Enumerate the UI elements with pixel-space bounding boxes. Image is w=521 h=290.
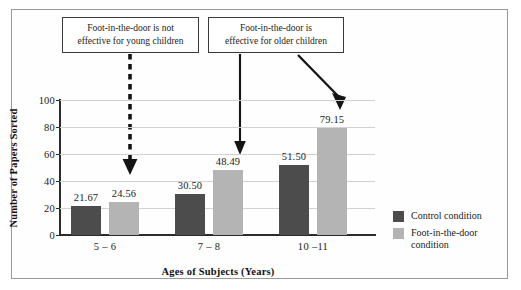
annotation-2-line-1: Foot-in-the-door is bbox=[215, 22, 337, 35]
chart-figure: Foot-in-the-door is not effective for yo… bbox=[0, 0, 521, 290]
plot-area: 02040608010021.6724.5630.5048.4951.5079.… bbox=[60, 100, 375, 235]
x-tick-label-2: 10 –11 bbox=[298, 241, 328, 252]
legend-label-control: Control condition bbox=[411, 210, 482, 222]
bar-control-0 bbox=[71, 206, 101, 235]
legend-item-foot-in-the-door: Foot-in-the-door condition bbox=[393, 227, 501, 250]
chart-legend: Control condition Foot-in-the-door condi… bbox=[393, 210, 501, 255]
legend-swatch-icon-foot-in-the-door bbox=[393, 228, 404, 239]
y-axis-title: Number of Papers Sorted bbox=[8, 108, 19, 227]
annotation-1-line-2: effective for young children bbox=[69, 35, 192, 48]
y-tick-mark-2 bbox=[56, 181, 60, 182]
bar-value-label-control-0: 21.67 bbox=[74, 192, 99, 203]
bar-value-label-foot-in-the-door-2: 79.15 bbox=[320, 114, 345, 125]
legend-label-foot-in-the-door: Foot-in-the-door condition bbox=[411, 227, 501, 250]
bar-control-1 bbox=[175, 194, 205, 235]
y-tick-mark-3 bbox=[56, 154, 60, 155]
annotation-2-line-2: effective for older children bbox=[215, 35, 337, 48]
y-tick-label-0: 0 bbox=[50, 230, 55, 241]
gridline bbox=[60, 100, 375, 101]
y-tick-mark-1 bbox=[56, 208, 60, 209]
bar-value-label-foot-in-the-door-0: 24.56 bbox=[112, 188, 137, 199]
y-tick-label-1: 20 bbox=[44, 203, 55, 214]
annotation-1-line-1: Foot-in-the-door is not bbox=[69, 22, 192, 35]
x-tick-label-1: 7 – 8 bbox=[198, 241, 221, 252]
y-tick-mark-4 bbox=[56, 127, 60, 128]
y-tick-mark-0 bbox=[56, 235, 60, 236]
annotation-box-older-children: Foot-in-the-door is effective for older … bbox=[208, 17, 344, 53]
x-tick-label-0: 5 – 6 bbox=[94, 241, 117, 252]
bar-foot-in-the-door-0 bbox=[109, 202, 139, 235]
bar-value-label-foot-in-the-door-1: 48.49 bbox=[216, 156, 241, 167]
legend-item-control: Control condition bbox=[393, 210, 501, 222]
bar-foot-in-the-door-2 bbox=[317, 128, 347, 235]
y-tick-label-2: 40 bbox=[44, 176, 55, 187]
bar-value-label-control-2: 51.50 bbox=[282, 151, 307, 162]
annotation-box-young-children: Foot-in-the-door is not effective for yo… bbox=[62, 17, 199, 53]
bar-value-label-control-1: 30.50 bbox=[178, 180, 203, 191]
x-axis-title: Ages of Subjects (Years) bbox=[162, 266, 275, 277]
bar-control-2 bbox=[279, 165, 309, 235]
legend-swatch-icon-control bbox=[393, 211, 404, 222]
y-tick-mark-5 bbox=[56, 100, 60, 101]
bar-foot-in-the-door-1 bbox=[213, 170, 243, 235]
y-tick-label-5: 100 bbox=[39, 95, 55, 106]
y-tick-label-4: 80 bbox=[44, 122, 55, 133]
y-tick-label-3: 60 bbox=[44, 149, 55, 160]
